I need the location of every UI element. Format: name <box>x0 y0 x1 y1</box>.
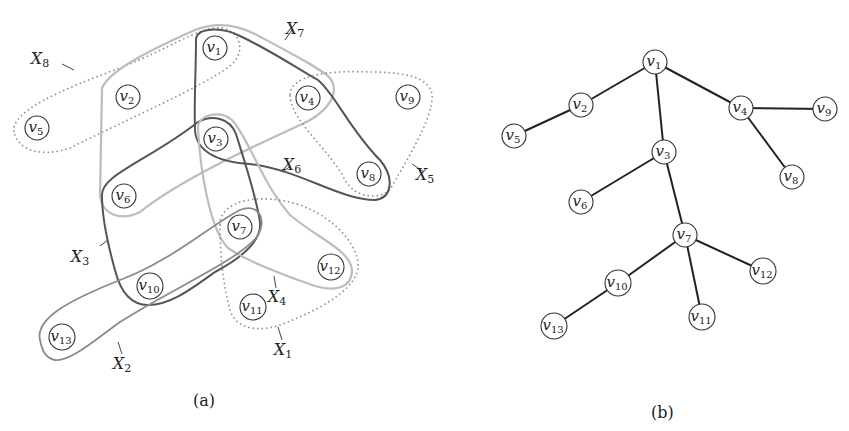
tree-edge-v3-v7 <box>664 152 685 235</box>
a-node-v13: v13 <box>49 324 75 350</box>
b-node-v11: v11 <box>689 304 715 330</box>
b-node-v13: v13 <box>541 313 567 339</box>
svg-text:X3: X3 <box>69 247 89 268</box>
a-node-v9: v9 <box>396 85 420 109</box>
svg-text:X6: X6 <box>281 155 301 176</box>
svg-text:X1: X1 <box>272 340 292 361</box>
a-node-v8: v8 <box>357 162 381 186</box>
a-node-v4: v4 <box>296 86 320 110</box>
a-node-v11: v11 <box>240 294 266 320</box>
tree-edges <box>514 62 825 326</box>
a-node-v10: v10 <box>137 273 163 299</box>
hyperedge-label-x1: X1 <box>272 340 292 361</box>
svg-text:X8: X8 <box>29 49 49 70</box>
a-node-v6: v6 <box>112 184 136 208</box>
caption-a: (a) <box>193 391 215 410</box>
b-node-v9: v9 <box>813 97 837 121</box>
b-node-v7: v7 <box>673 223 697 247</box>
x1-leader-line <box>278 327 282 340</box>
tree-edge-v3-v6 <box>581 152 664 202</box>
a-node-v2: v2 <box>116 85 140 109</box>
tree-edge-v1-v4 <box>655 62 741 108</box>
b-node-v2: v2 <box>569 93 593 117</box>
hyperedge-labels: X1X2X3X4X5X6X7X8 <box>29 19 434 375</box>
svg-text:X2: X2 <box>111 354 131 375</box>
x3-leader-line <box>100 240 108 246</box>
a-node-v7: v7 <box>228 215 252 239</box>
figure-canvas: X1X2X3X4X5X6X7X8 v1v2v3v4v5v6v7v8v9v10v1… <box>0 0 849 431</box>
b-node-v12: v12 <box>750 258 776 284</box>
tree-edge-v4-v9 <box>741 108 825 109</box>
b-node-v8: v8 <box>780 165 804 189</box>
caption-b: (b) <box>651 403 674 422</box>
svg-text:X4: X4 <box>266 287 286 308</box>
b-node-v5: v5 <box>502 124 526 148</box>
svg-text:X7: X7 <box>284 19 304 40</box>
b-node-v10: v10 <box>605 270 631 296</box>
a-node-v5: v5 <box>25 116 49 140</box>
hyperedge-label-x7: X7 <box>284 19 304 40</box>
a-node-v1: v1 <box>203 36 227 60</box>
b-node-v1: v1 <box>643 50 667 74</box>
panel-a-hypergraph: X1X2X3X4X5X6X7X8 v1v2v3v4v5v6v7v8v9v10v1… <box>14 19 434 375</box>
panel-b-nodes: v1v2v3v4v5v6v7v8v9v10v11v12v13 <box>502 50 837 339</box>
x8-leader-line <box>62 64 74 70</box>
svg-text:X5: X5 <box>414 165 434 186</box>
hyperedge-label-x3: X3 <box>69 247 89 268</box>
b-node-v4: v4 <box>729 96 753 120</box>
b-node-v3: v3 <box>652 140 676 164</box>
x2-leader-line <box>118 342 122 354</box>
panel-a-nodes: v1v2v3v4v5v6v7v8v9v10v11v12v13 <box>25 36 420 350</box>
b-node-v6: v6 <box>569 190 593 214</box>
hyperedge-label-x2: X2 <box>111 354 131 375</box>
a-node-v3: v3 <box>204 127 228 151</box>
hyperedge-label-x4: X4 <box>266 287 286 308</box>
panel-b-tree: v1v2v3v4v5v6v7v8v9v10v11v12v13 <box>502 50 837 339</box>
hyperedge-label-x6: X6 <box>281 155 301 176</box>
a-node-v12: v12 <box>318 254 344 280</box>
hyperedge-label-x5: X5 <box>414 165 434 186</box>
hyperedge-label-x8: X8 <box>29 49 49 70</box>
tree-edge-v1-v2 <box>581 62 655 105</box>
tree-edge-v1-v3 <box>655 62 664 152</box>
